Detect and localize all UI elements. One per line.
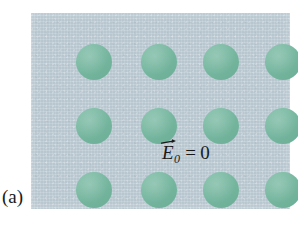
equation-subscript: 0: [174, 152, 180, 166]
vector-arrow-icon: [161, 139, 176, 146]
atom-circle: [76, 44, 112, 80]
equation-value: 0: [200, 142, 210, 163]
atom-circle: [203, 44, 239, 80]
atom-circle: [203, 172, 239, 208]
atom-circle: [76, 108, 112, 144]
vector-symbol-group: E0: [162, 139, 180, 165]
atom-circle: [141, 44, 177, 80]
dielectric-material-panel: E0 =0: [31, 13, 290, 209]
panel-caption-label: (a): [2, 187, 23, 206]
equation-relation: =: [185, 142, 196, 163]
atom-circle: [76, 172, 112, 208]
atom-circle: [265, 172, 298, 208]
atom-circle: [141, 172, 177, 208]
figure-root: E0 =0 (a): [0, 0, 298, 227]
electric-field-equation: E0 =0: [162, 139, 210, 165]
atom-circle: [265, 108, 298, 144]
atom-circle: [265, 44, 298, 80]
